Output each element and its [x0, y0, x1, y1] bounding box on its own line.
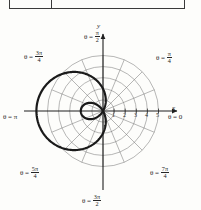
fraction: 3π 2 — [93, 194, 101, 208]
angle-label-prefix: θ = — [156, 54, 165, 62]
fraction-denominator: 4 — [35, 57, 43, 63]
figure-page: x y 1 2 3 4 5 θ = 0 θ = π 4 θ = π 2 — [0, 0, 201, 210]
angle-label-theta-pi-2: θ = π 2 — [84, 30, 100, 44]
x-axis-label: x — [172, 104, 175, 112]
angle-label-prefix: θ = — [150, 169, 159, 177]
x-tick-1: 1 — [112, 112, 115, 118]
fraction-denominator: 2 — [95, 37, 100, 43]
angle-label-value: π — [14, 113, 18, 121]
angle-label-value: 0 — [179, 113, 183, 121]
fraction-denominator: 4 — [31, 173, 39, 179]
fraction-denominator: 4 — [161, 173, 169, 179]
fraction-denominator: 2 — [93, 201, 101, 207]
x-tick-3: 3 — [134, 112, 137, 118]
x-tick-5: 5 — [156, 112, 159, 118]
angle-label-prefix: θ = — [3, 113, 12, 121]
fraction: 3π 4 — [35, 50, 43, 64]
angle-label-theta-3pi-4: θ = 3π 4 — [24, 50, 43, 64]
angle-label-theta-0: θ = 0 — [168, 114, 182, 121]
angle-label-theta-5pi-4: θ = 5π 4 — [20, 166, 39, 180]
angle-label-theta-3pi-2: θ = 3π 2 — [82, 194, 101, 208]
angle-label-prefix: θ = — [20, 169, 29, 177]
angle-label-theta-7pi-4: θ = 7π 4 — [150, 166, 169, 180]
x-tick-2: 2 — [123, 112, 126, 118]
fraction: π 4 — [167, 51, 172, 65]
fraction-denominator: 4 — [167, 58, 172, 64]
polar-plot-svg — [0, 8, 201, 210]
polar-plot-figure: x y 1 2 3 4 5 θ = 0 θ = π 4 θ = π 2 — [0, 8, 201, 210]
fraction: 5π 4 — [31, 166, 39, 180]
fraction: π 2 — [95, 30, 100, 44]
angle-label-theta-pi: θ = π — [3, 114, 17, 121]
angle-label-prefix: θ = — [82, 197, 91, 205]
angle-label-prefix: θ = — [84, 33, 93, 41]
angle-label-prefix: θ = — [168, 113, 177, 121]
angle-label-theta-pi-4: θ = π 4 — [156, 51, 172, 65]
angle-label-prefix: θ = — [24, 53, 33, 61]
fraction: 7π 4 — [161, 166, 169, 180]
x-tick-4: 4 — [145, 112, 148, 118]
